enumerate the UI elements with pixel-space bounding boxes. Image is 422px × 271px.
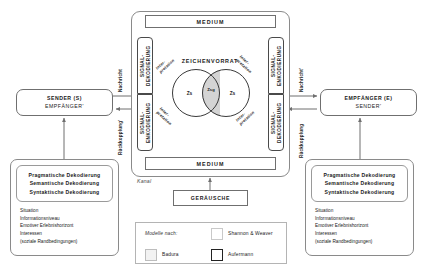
medium-bottom-bar: MEDIUM (145, 157, 276, 170)
venn-circle-left-label: Zs (187, 91, 193, 96)
attribute-list-left: Situation Informationsniveau Emotiver Er… (20, 207, 118, 245)
receiver-box-line1: EMPFÄNGER (E) (345, 95, 393, 103)
attribute-list-right: Situation Informationsniveau Emotiver Er… (315, 207, 413, 245)
signal-decoding-right-box: SIGNAL- DEKODIERUNG (268, 94, 284, 151)
medium-top-label: MEDIUM (197, 19, 225, 25)
legend-item-badura: Badura (136, 249, 202, 261)
legend-item-aufermann: Aufermann (202, 249, 288, 261)
legend-swatch-icon-badura (145, 249, 157, 261)
diagram-canvas: Kanal MEDIUM MEDIUM SIGNAL- DEKODIERUNG … (0, 0, 422, 271)
signal-decoding-right-text: SIGNAL- DEKODIERUNG (270, 102, 281, 143)
receiver-box-line2: SENDER' (355, 103, 381, 111)
legend-title: Modelle nach: (145, 231, 177, 236)
legend-swatch-icon-aufermann (211, 249, 223, 261)
sender-attributes-panel: Pragmatische Dekodierung Semantische Dek… (10, 159, 119, 256)
signal-encoding-right-text: SIGNAL- ENKODIERUNG (270, 45, 281, 86)
venn-circle-right: Zs (202, 69, 250, 117)
legend-label-aufermann: Aufermann (228, 252, 253, 257)
signal-encoding-left-box: SIGNAL- ENKODIERUNG (137, 94, 153, 151)
channel-label: Kanal (137, 178, 151, 184)
sender-box: SENDER (S) EMPFÄNGER' (16, 89, 113, 116)
flow-label-nachricht: Nachricht (118, 69, 123, 92)
sender-box-line1: SENDER (S) (47, 95, 82, 103)
venn-circle-right-label: Zs (230, 91, 236, 96)
legend-box: Modelle nach: Shannon & Weaver Badura Au… (135, 222, 287, 264)
receiver-box: EMPFÄNGER (E) SENDER' (320, 89, 417, 116)
signal-decoding-left-box: SIGNAL- DEKODIERUNG (137, 37, 153, 94)
noise-box-label: GERÄUSCHE (191, 195, 230, 201)
sender-box-line2: EMPFÄNGER' (45, 103, 84, 111)
signal-decoding-left-text: SIGNAL- DEKODIERUNG (139, 45, 150, 86)
signal-encoding-right-box: SIGNAL- ENKODIERUNG (268, 37, 284, 94)
decoding-list-right: Pragmatische Dekodierung Semantische Dek… (311, 165, 408, 202)
receiver-attributes-panel: Pragmatische Dekodierung Semantische Dek… (305, 159, 414, 256)
signal-encoding-left-text: SIGNAL- ENKODIERUNG (139, 102, 150, 143)
medium-top-bar: MEDIUM (145, 15, 276, 28)
decoding-list-left: Pragmatische Dekodierung Semantische Dek… (16, 165, 113, 202)
medium-bottom-label: MEDIUM (197, 161, 225, 167)
legend-label-shannon-weaver: Shannon & Weaver (228, 231, 273, 236)
flow-label-rueckkopplung-left: Rückkopplung' (118, 119, 123, 155)
noise-box: GERÄUSCHE (173, 190, 248, 206)
flow-label-nachricht-prime: Nachricht' (299, 68, 304, 92)
venn-intersection-label: Zsg (203, 87, 219, 92)
flow-label-rueckkopplung-right: Rückkopplung (299, 124, 304, 158)
legend-label-badura: Badura (162, 252, 179, 257)
legend-swatch-icon-shannon-weaver (211, 228, 223, 240)
legend-item-shannon-weaver: Shannon & Weaver (202, 228, 288, 240)
legend-title-cell: Modelle nach: (136, 231, 202, 236)
